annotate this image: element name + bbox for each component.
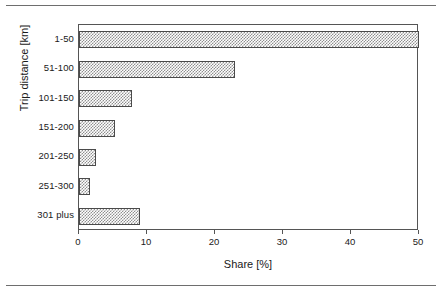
bar-chart-figure: Trip distance [km] 1-5051-100101-150151-… (0, 0, 442, 294)
x-tick-label: 40 (330, 236, 370, 247)
bar (79, 61, 235, 78)
bar (79, 31, 419, 48)
bar-row (79, 178, 419, 195)
x-tick-mark (214, 230, 215, 234)
x-tick-label: 0 (58, 236, 98, 247)
y-tick-label: 1-50 (2, 33, 74, 44)
x-tick-mark (282, 230, 283, 234)
x-tick-mark (350, 230, 351, 234)
x-tick-mark (418, 230, 419, 234)
bar (79, 178, 90, 195)
bar-series (79, 25, 417, 229)
x-tick-mark (78, 230, 79, 234)
bar (79, 120, 115, 137)
y-tick-label: 51-100 (2, 62, 74, 73)
x-axis-title: Share [%] (78, 258, 418, 270)
x-tick-label: 20 (194, 236, 234, 247)
bar-row (79, 208, 419, 225)
bar-row (79, 120, 419, 137)
x-tick-label: 50 (398, 236, 438, 247)
bar-row (79, 61, 419, 78)
x-tick-label: 10 (126, 236, 166, 247)
bar-row (79, 31, 419, 48)
y-tick-label: 201-250 (2, 150, 74, 161)
bar (79, 149, 96, 166)
plot-area (78, 24, 418, 230)
bar (79, 90, 132, 107)
x-tick-label: 30 (262, 236, 302, 247)
bar-row (79, 90, 419, 107)
y-tick-label: 301 plus (2, 209, 74, 220)
y-tick-label: 101-150 (2, 92, 74, 103)
y-tick-label: 151-200 (2, 121, 74, 132)
x-tick-mark (146, 230, 147, 234)
y-tick-label: 251-300 (2, 180, 74, 191)
bar-row (79, 149, 419, 166)
bar (79, 208, 140, 225)
